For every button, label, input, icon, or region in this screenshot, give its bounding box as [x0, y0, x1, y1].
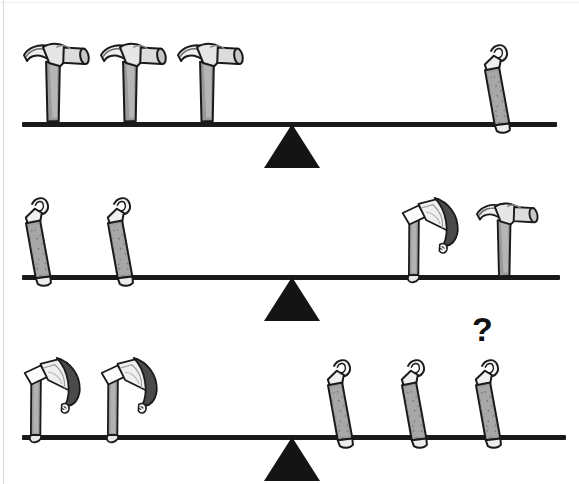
- scan-edge-top: [0, 2, 579, 3]
- puzzle-canvas: ?: [0, 0, 579, 484]
- nail-file: [442, 350, 542, 458]
- axe: [81, 351, 172, 447]
- hammer: [463, 192, 559, 293]
- fulcrum-2: [264, 277, 320, 321]
- fulcrum-1: [264, 124, 320, 168]
- fulcrum-3: [264, 437, 320, 481]
- question-mark-annotation: ?: [472, 312, 493, 346]
- axe: [382, 191, 473, 287]
